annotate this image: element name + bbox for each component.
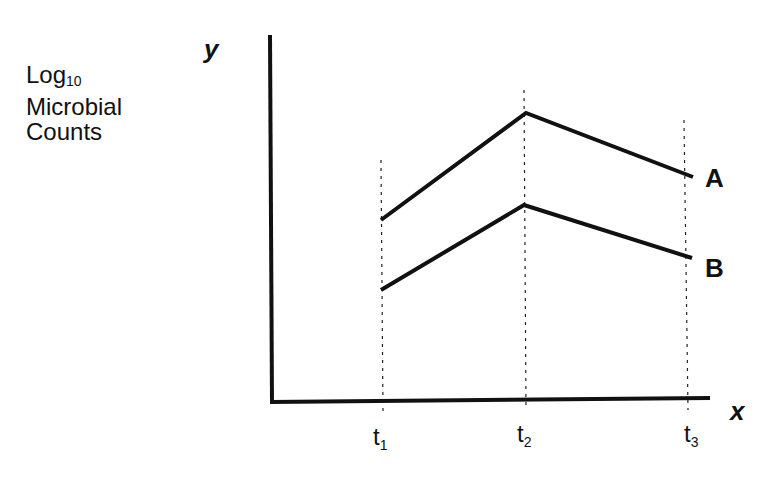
x-axis bbox=[270, 398, 710, 402]
series-b-label: B bbox=[705, 253, 724, 284]
tick-t1: t1 bbox=[373, 423, 387, 453]
y-axis-symbol: y bbox=[204, 34, 218, 65]
y-axis-label: Log10 Microbial Counts bbox=[26, 62, 122, 144]
tick-t3: t3 bbox=[684, 420, 698, 450]
series-a-label: A bbox=[705, 163, 724, 194]
guide-lines bbox=[381, 90, 688, 412]
series-b-line bbox=[381, 205, 692, 290]
x-axis-symbol: x bbox=[730, 396, 744, 427]
tick-t2: t2 bbox=[517, 420, 531, 450]
series-a-line bbox=[381, 113, 693, 220]
y-axis bbox=[270, 35, 272, 403]
chart-root: Log10 Microbial Counts y x t1 t2 t3 A B bbox=[0, 0, 778, 485]
